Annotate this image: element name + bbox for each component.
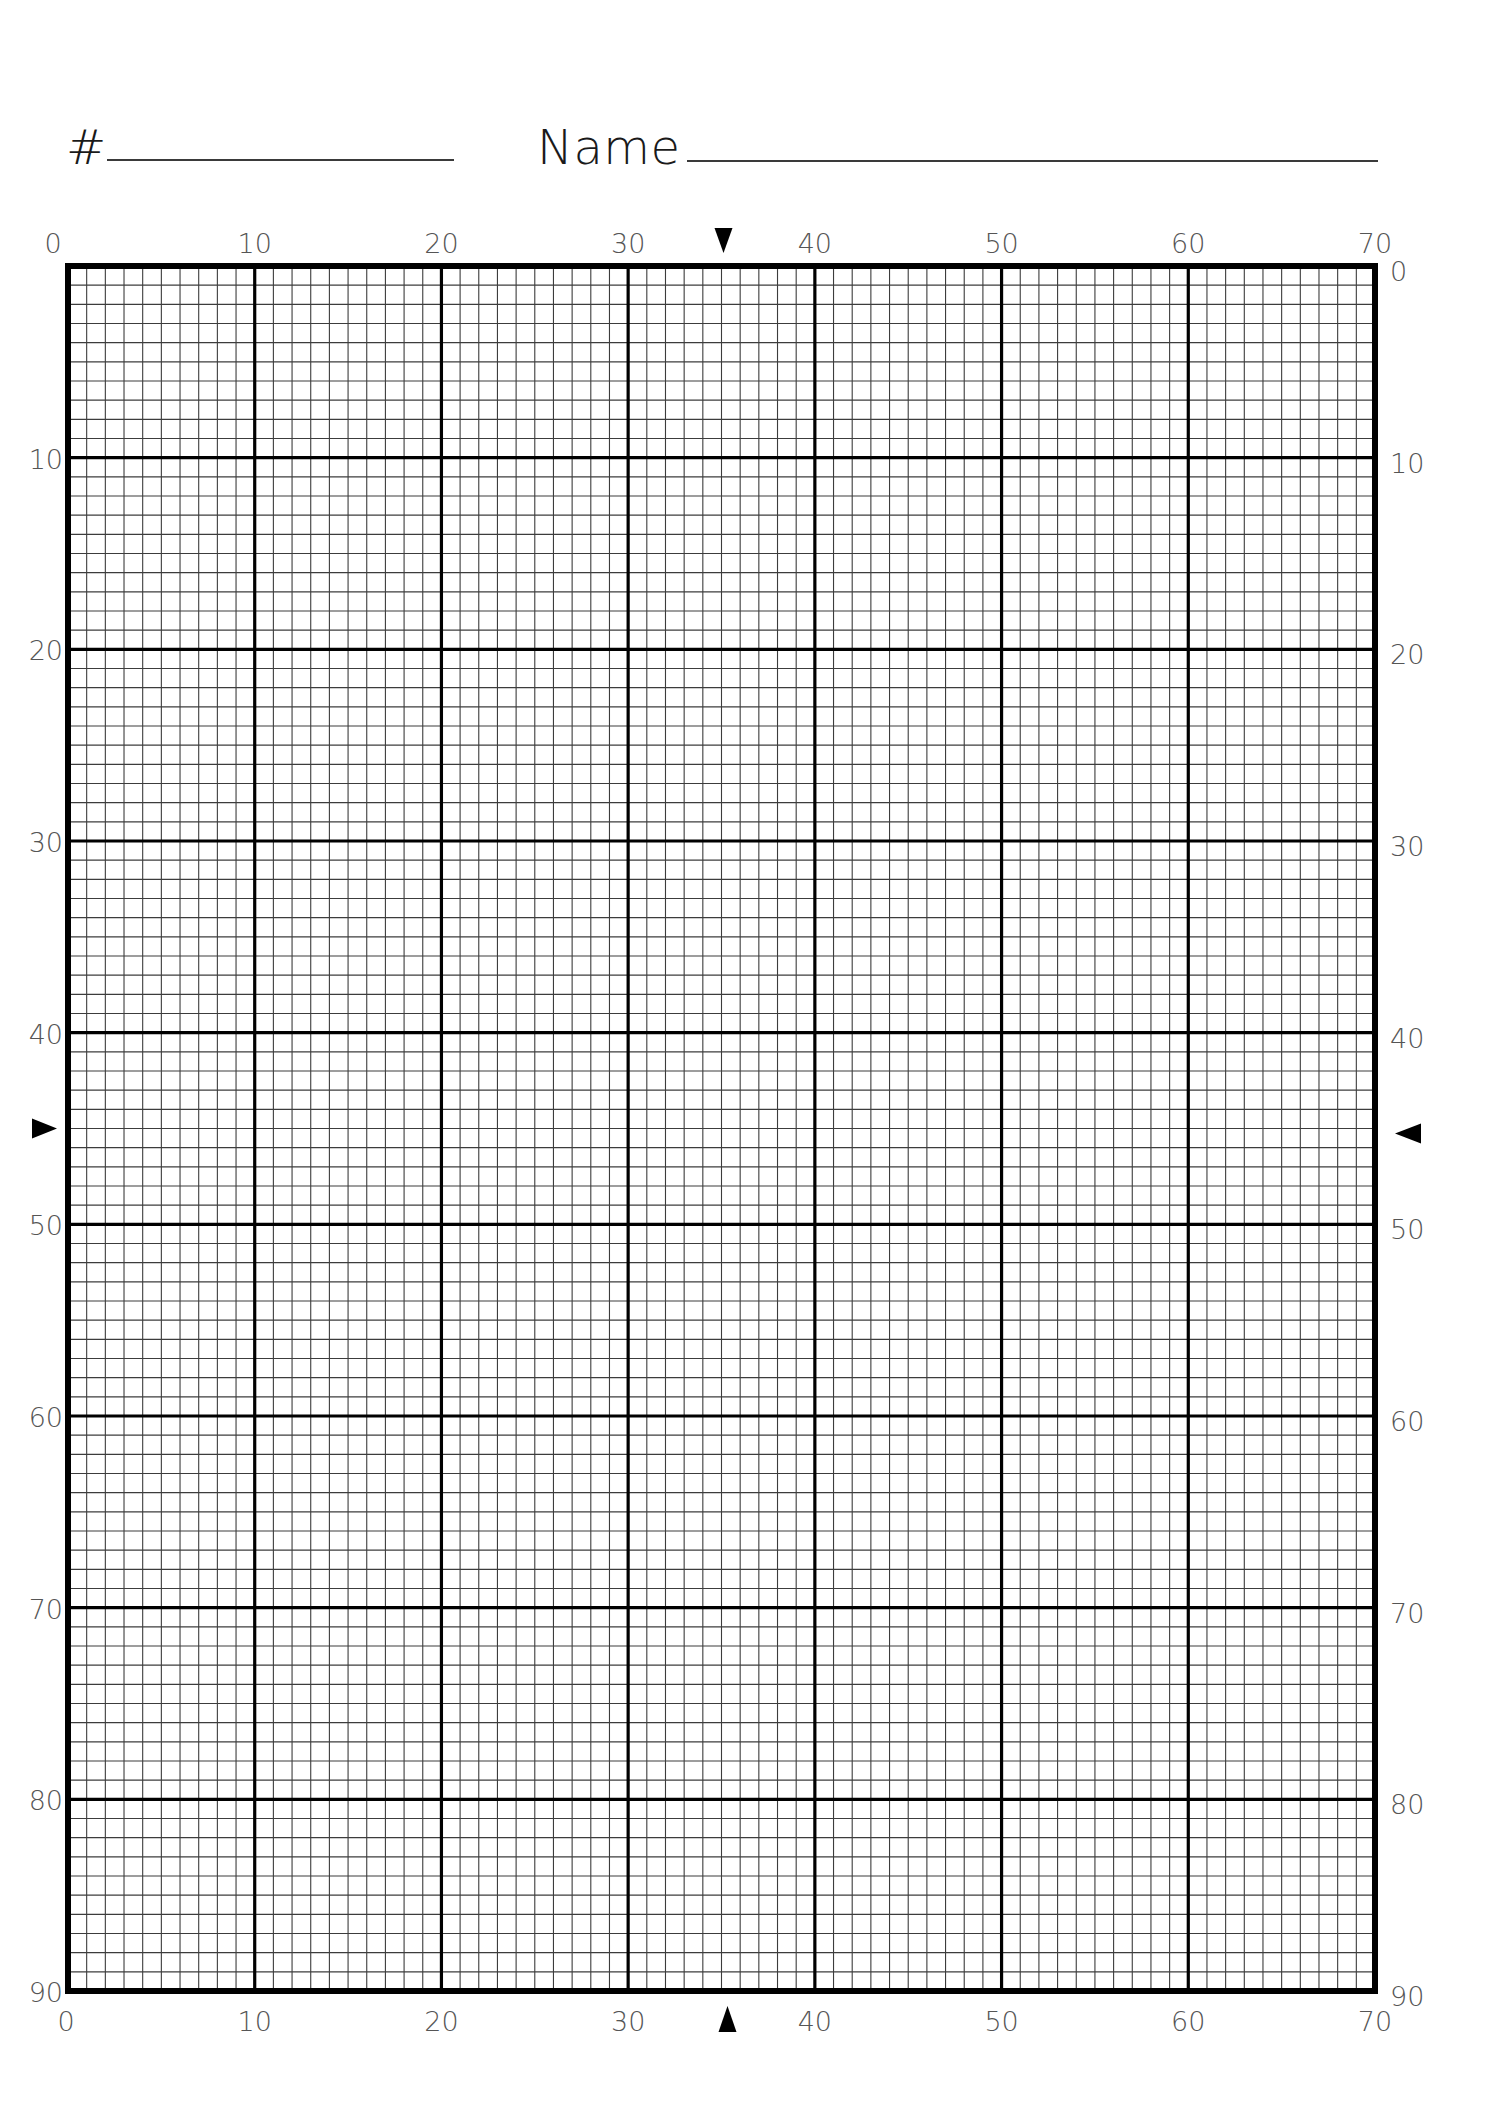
top-axis-label: 10 <box>238 230 272 257</box>
top-axis-label: 60 <box>1171 230 1205 257</box>
right-axis-label: 20 <box>1390 641 1424 668</box>
center-column-marker-top-icon <box>715 228 733 253</box>
right-axis-label: 40 <box>1390 1025 1424 1052</box>
right-axis-label: 0 <box>1390 258 1407 285</box>
center-row-marker-left-icon <box>32 1119 57 1139</box>
right-axis-label: 10 <box>1390 450 1424 477</box>
right-axis-label: 90 <box>1390 1983 1424 2010</box>
left-axis-label: 60 <box>29 1404 63 1431</box>
bottom-axis-label: 10 <box>238 2008 272 2035</box>
right-axis-label: 80 <box>1390 1791 1424 1818</box>
right-axis-label: 60 <box>1390 1408 1424 1435</box>
graph-grid <box>0 0 1506 2114</box>
top-axis-label: 20 <box>424 230 458 257</box>
right-axis-label: 70 <box>1390 1600 1424 1627</box>
left-axis-label: 10 <box>29 446 63 473</box>
bottom-axis-label: 70 <box>1358 2008 1392 2035</box>
bottom-axis-label: 50 <box>984 2008 1018 2035</box>
top-axis-label: 40 <box>798 230 832 257</box>
top-axis-label: 70 <box>1358 230 1392 257</box>
right-axis-label: 30 <box>1390 833 1424 860</box>
minor-gridlines <box>68 266 1375 1991</box>
top-axis-label: 30 <box>611 230 645 257</box>
bottom-axis-label: 60 <box>1171 2008 1205 2035</box>
left-axis-label: 50 <box>29 1212 63 1239</box>
left-axis-label: 80 <box>29 1787 63 1814</box>
bottom-axis-label: 30 <box>611 2008 645 2035</box>
bottom-axis-label: 20 <box>424 2008 458 2035</box>
top-axis-label: 0 <box>44 230 61 257</box>
left-axis-label: 20 <box>29 637 63 664</box>
right-axis-label: 50 <box>1390 1216 1424 1243</box>
bottom-axis-label: 40 <box>798 2008 832 2035</box>
left-axis-label: 70 <box>29 1596 63 1623</box>
center-row-marker-right-icon <box>1395 1124 1421 1144</box>
left-axis-label: 30 <box>29 829 63 856</box>
left-axis-label: 40 <box>29 1021 63 1048</box>
top-axis-label: 50 <box>984 230 1018 257</box>
center-column-marker-bottom-icon <box>719 2006 737 2032</box>
left-axis-label: 90 <box>29 1979 63 2006</box>
bottom-axis-label: 0 <box>57 2008 74 2035</box>
